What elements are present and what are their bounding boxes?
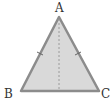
vertex-label-c: C bbox=[101, 87, 110, 101]
vertex-label-b: B bbox=[4, 87, 13, 101]
triangle-abc bbox=[21, 17, 99, 91]
triangle-diagram: A B C bbox=[0, 0, 111, 106]
vertex-label-a: A bbox=[54, 1, 64, 15]
